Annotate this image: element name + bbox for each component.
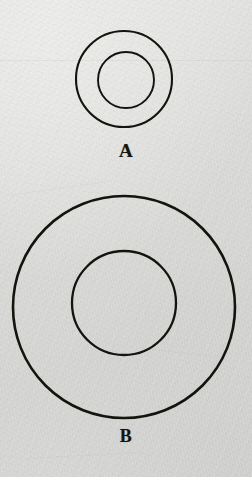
figure-a-outer-circle bbox=[76, 31, 172, 127]
figure-b-label: B bbox=[0, 427, 252, 445]
figure-b-group bbox=[13, 196, 235, 418]
diagram-page: A B bbox=[0, 0, 252, 477]
figure-a-inner-circle bbox=[98, 52, 154, 108]
figure-a-label: A bbox=[0, 141, 252, 160]
figure-b-inner-circle bbox=[72, 251, 176, 355]
figure-b-outer-circle bbox=[13, 196, 235, 418]
figure-a-group bbox=[76, 31, 172, 127]
figures-canvas bbox=[0, 0, 252, 477]
